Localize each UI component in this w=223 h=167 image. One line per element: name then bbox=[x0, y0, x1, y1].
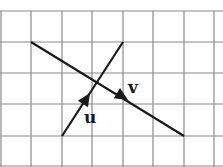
vector-v-line bbox=[31, 42, 184, 136]
vector-diagram: uv bbox=[0, 0, 223, 167]
vectors: uv bbox=[31, 42, 184, 136]
vector-u-arrowhead-icon bbox=[78, 93, 90, 107]
vector-u-label: u bbox=[84, 107, 96, 127]
grid bbox=[0, 11, 223, 167]
vector-v-label: v bbox=[127, 77, 139, 97]
